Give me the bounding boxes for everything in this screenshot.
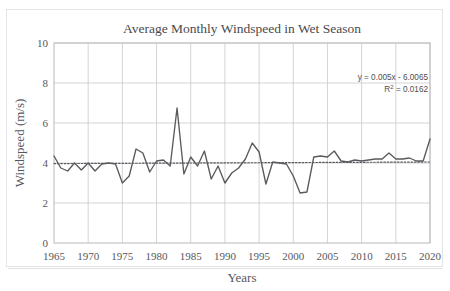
chart-title: Average Monthly Windspeed in Wet Season bbox=[123, 21, 361, 36]
y-tick-label: 6 bbox=[43, 117, 49, 129]
y-axis-title: Windspeed (m/s) bbox=[12, 99, 27, 188]
x-tick-label: 2015 bbox=[385, 250, 408, 262]
x-tick-label: 2005 bbox=[316, 250, 339, 262]
x-tick-label: 2010 bbox=[351, 250, 374, 262]
x-tick-label: 1985 bbox=[180, 250, 203, 262]
trendline-equation-label: y = 0.005x - 6.0065 bbox=[358, 73, 429, 82]
x-tick-label: 1995 bbox=[248, 250, 271, 262]
x-tick-label: 1975 bbox=[111, 250, 134, 262]
windspeed-line-chart: 0246810 19651970197519801985199019952000… bbox=[0, 0, 450, 291]
y-tick-label: 4 bbox=[43, 157, 49, 169]
y-tick-label: 8 bbox=[43, 77, 49, 89]
y-tick-label: 0 bbox=[43, 237, 49, 249]
x-tick-label: 1965 bbox=[43, 250, 66, 262]
x-tick-label: 1980 bbox=[146, 250, 169, 262]
y-tick-label: 10 bbox=[37, 37, 49, 49]
x-axis-title: Years bbox=[227, 270, 256, 285]
x-tick-label: 1970 bbox=[77, 250, 100, 262]
x-tick-label: 1990 bbox=[214, 250, 237, 262]
y-tick-label: 2 bbox=[43, 197, 49, 209]
x-tick-label: 2000 bbox=[282, 250, 305, 262]
figure-container: 0246810 19651970197519801985199019952000… bbox=[0, 0, 450, 291]
y-axis-tick-labels: 0246810 bbox=[37, 37, 49, 249]
x-tick-label: 2020 bbox=[419, 250, 442, 262]
x-axis-tick-labels: 1965197019751980198519901995200020052010… bbox=[43, 250, 442, 262]
